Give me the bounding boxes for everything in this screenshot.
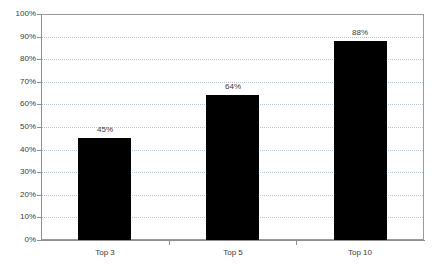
bar-chart: 0%10%20%30%40%50%60%70%80%90%100% 45%64%… [0, 0, 433, 266]
y-axis-tick-mark [37, 195, 41, 196]
y-axis-tick-mark [37, 127, 41, 128]
bar-value-label: 45% [75, 126, 135, 134]
y-axis-tick-label: 50% [0, 123, 36, 131]
y-axis-tick-label: 10% [0, 213, 36, 221]
y-axis-tick-mark [37, 240, 41, 241]
gridline [41, 37, 423, 38]
y-axis-tick-mark [37, 217, 41, 218]
bar [334, 41, 387, 240]
bar [78, 138, 131, 240]
y-axis-tick-label: 20% [0, 191, 36, 199]
y-axis-tick-mark [37, 172, 41, 173]
y-axis-tick-mark [37, 14, 41, 15]
y-axis-tick-label: 90% [0, 33, 36, 41]
x-axis-tick-mark [296, 240, 297, 245]
x-axis-tick-mark [169, 240, 170, 245]
y-axis-tick-label: 0% [0, 236, 36, 244]
y-axis-tick-mark [37, 37, 41, 38]
y-axis-tick-mark [37, 59, 41, 60]
y-axis-tick-label: 60% [0, 100, 36, 108]
y-axis-tick-label: 70% [0, 78, 36, 86]
bar [206, 95, 259, 240]
bar-value-label: 88% [330, 29, 390, 37]
y-axis-tick-label: 80% [0, 55, 36, 63]
y-axis-line [41, 14, 42, 241]
y-axis-tick-label: 40% [0, 146, 36, 154]
y-axis-tick-mark [37, 82, 41, 83]
y-axis-tick-mark [37, 104, 41, 105]
x-axis-category-label: Top 3 [65, 249, 145, 257]
y-axis-tick-mark [37, 150, 41, 151]
x-axis-line [41, 240, 425, 241]
x-axis-category-label: Top 5 [193, 249, 273, 257]
x-axis-category-label: Top 10 [320, 249, 400, 257]
y-axis-tick-label: 30% [0, 168, 36, 176]
y-axis-tick-label: 100% [0, 10, 36, 18]
bar-value-label: 64% [203, 83, 263, 91]
